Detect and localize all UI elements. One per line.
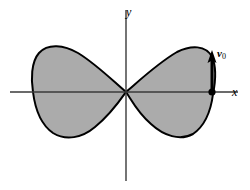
- y-axis-label: y: [126, 6, 131, 18]
- physics-figure-lemniscate: y x v0: [0, 0, 250, 190]
- particle-point-marker: [208, 88, 215, 95]
- figure-canvas: [0, 0, 250, 190]
- velocity-vector-subscript: 0: [222, 52, 226, 61]
- velocity-vector-label: v0: [217, 48, 226, 61]
- x-axis-label: x: [232, 86, 237, 98]
